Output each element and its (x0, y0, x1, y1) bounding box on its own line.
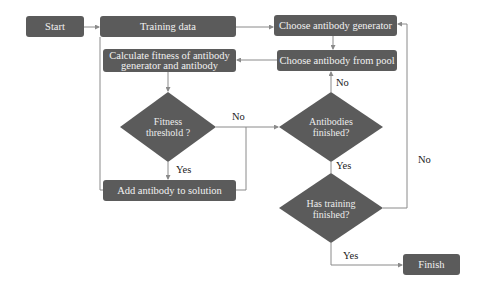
start-node: Start (26, 16, 84, 37)
training-finished-text: Has training finished? (301, 190, 361, 228)
antibodies-finished-text: Antibodies finished? (296, 112, 366, 142)
choose-from-pool-node: Choose antibody from pool (277, 50, 397, 71)
connector-lines (0, 0, 483, 287)
training-data-node: Training data (100, 16, 236, 37)
fitness-no-label: No (232, 111, 245, 122)
add-antibody-node: Add antibody to solution (103, 180, 236, 201)
finish-node: Finish (403, 254, 460, 275)
edge-add-antibodies (236, 127, 246, 190)
antibodies-yes-label: Yes (336, 160, 351, 171)
calc-fitness-node: Calculate fitness of antibody generator … (103, 49, 236, 72)
choose-generator-label: Choose antibody generator (279, 21, 392, 31)
choose-from-pool-label: Choose antibody from pool (279, 56, 394, 66)
add-antibody-label: Add antibody to solution (117, 186, 222, 196)
fitness-threshold-text: Fitness threshold ? (138, 106, 198, 148)
training-data-label: Training data (140, 22, 196, 32)
choose-generator-node: Choose antibody generator (274, 15, 397, 36)
start-label: Start (45, 22, 65, 32)
edge-training-finish (331, 243, 402, 265)
training-no-label: No (418, 154, 431, 165)
calc-fitness-label: Calculate fitness of antibody generator … (107, 51, 232, 71)
antibodies-no-label: No (336, 77, 349, 88)
finish-label: Finish (418, 260, 444, 270)
fitness-yes-label: Yes (176, 164, 191, 175)
training-yes-label: Yes (343, 250, 358, 261)
